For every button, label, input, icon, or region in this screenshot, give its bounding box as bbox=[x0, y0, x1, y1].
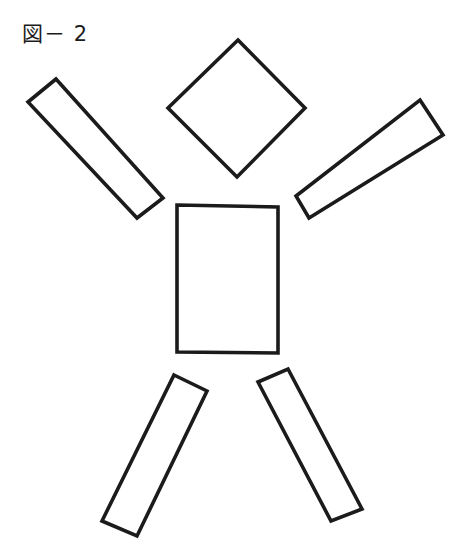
left-arm-bar-shape bbox=[28, 79, 163, 218]
head-diamond-shape bbox=[168, 40, 305, 177]
right-arm-bar-shape bbox=[296, 100, 443, 218]
figure-page: 図－ 2 bbox=[0, 0, 466, 553]
torso-rectangle-shape bbox=[177, 205, 278, 353]
right-leg-bar-shape bbox=[258, 369, 362, 521]
left-leg-bar-shape bbox=[102, 375, 207, 536]
figure-drawing-canvas bbox=[0, 0, 466, 553]
